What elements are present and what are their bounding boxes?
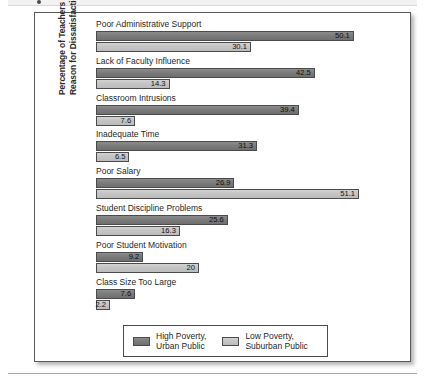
chart-legend: High Poverty, Urban Public Low Poverty, … bbox=[123, 325, 328, 357]
legend-swatch-icon bbox=[222, 337, 239, 346]
bar-row: 30.1 bbox=[96, 42, 251, 52]
bar-row: 50.1 bbox=[96, 31, 354, 41]
page-top-mark-icon bbox=[37, 0, 41, 4]
bar-value-label: 6.5 bbox=[115, 153, 129, 161]
chart-figure: Percentage of Teachers Giving Reason for… bbox=[34, 12, 411, 362]
bar-low-poverty-suburban[interactable]: 2.2 bbox=[96, 300, 110, 310]
bar-value-label: 51.1 bbox=[340, 190, 358, 198]
bar-low-poverty-suburban[interactable]: 30.1 bbox=[96, 42, 251, 52]
bar-row: 31.3 bbox=[96, 141, 257, 151]
bar-group: Poor Student Motivation9.220 bbox=[96, 240, 396, 277]
bar-row: 7.6 bbox=[96, 116, 135, 126]
bar-high-poverty-urban[interactable]: 25.6 bbox=[96, 215, 228, 225]
legend-label: Low Poverty, Suburban Public bbox=[245, 331, 307, 352]
bar-low-poverty-suburban[interactable]: 51.1 bbox=[96, 189, 359, 199]
category-label: Class Size Too Large bbox=[96, 277, 176, 288]
bar-row: 7.6 bbox=[96, 289, 135, 299]
bar-value-label: 26.9 bbox=[216, 179, 234, 187]
bar-value-label: 42.5 bbox=[296, 69, 314, 77]
page-root: Percentage of Teachers Giving Reason for… bbox=[0, 0, 425, 380]
category-label: Poor Administrative Support bbox=[96, 19, 201, 30]
bar-row: 51.1 bbox=[96, 189, 359, 199]
bar-value-label: 14.3 bbox=[151, 80, 169, 88]
legend-label-line1: Low Poverty, bbox=[245, 331, 307, 342]
bar-low-poverty-suburban[interactable]: 16.3 bbox=[96, 226, 180, 236]
bar-row: 26.9 bbox=[96, 178, 234, 188]
bar-row: 14.3 bbox=[96, 79, 170, 89]
y-axis-title-line2: Reason for Dissatisfaction bbox=[68, 0, 79, 95]
bar-value-label: 7.6 bbox=[121, 117, 135, 125]
bar-value-label: 2.2 bbox=[95, 301, 109, 309]
bar-group: Poor Administrative Support50.130.1 bbox=[96, 19, 396, 56]
category-label: Student Discipline Problems bbox=[96, 203, 202, 214]
bar-low-poverty-suburban[interactable]: 6.5 bbox=[96, 152, 129, 162]
bar-high-poverty-urban[interactable]: 9.2 bbox=[96, 252, 143, 262]
bar-value-label: 50.1 bbox=[335, 32, 353, 40]
legend-item-high-poverty-urban-public[interactable]: High Poverty, Urban Public bbox=[133, 331, 206, 352]
category-label: Inadequate Time bbox=[96, 129, 159, 140]
bar-value-label: 9.2 bbox=[129, 253, 143, 261]
bar-low-poverty-suburban[interactable]: 14.3 bbox=[96, 79, 170, 89]
category-label: Poor Student Motivation bbox=[96, 240, 187, 251]
legend-swatch-icon bbox=[133, 337, 150, 346]
bar-high-poverty-urban[interactable]: 50.1 bbox=[96, 31, 354, 41]
bar-high-poverty-urban[interactable]: 7.6 bbox=[96, 289, 135, 299]
bar-group: Lack of Faculty Influence42.514.3 bbox=[96, 56, 396, 93]
bar-high-poverty-urban[interactable]: 31.3 bbox=[96, 141, 257, 151]
page-bottom-rule bbox=[8, 373, 417, 374]
bar-row: 20 bbox=[96, 263, 199, 273]
bar-group: Class Size Too Large7.62.2 bbox=[96, 277, 396, 314]
bar-group: Inadequate Time31.36.5 bbox=[96, 129, 396, 166]
bar-low-poverty-suburban[interactable]: 20 bbox=[96, 263, 199, 273]
bar-group: Poor Salary26.951.1 bbox=[96, 166, 396, 203]
category-label: Classroom Intrusions bbox=[96, 93, 176, 104]
bar-row: 39.4 bbox=[96, 105, 299, 115]
legend-label-line2: Suburban Public bbox=[245, 341, 307, 352]
legend-label-line1: High Poverty, bbox=[156, 331, 206, 342]
y-axis-title-line1: Percentage of Teachers Giving bbox=[57, 0, 68, 95]
legend-label-line2: Urban Public bbox=[156, 341, 206, 352]
category-label: Poor Salary bbox=[96, 166, 140, 177]
category-label: Lack of Faculty Influence bbox=[96, 56, 190, 67]
bar-row: 25.6 bbox=[96, 215, 228, 225]
bar-row: 2.2 bbox=[96, 300, 110, 310]
legend-label: High Poverty, Urban Public bbox=[156, 331, 206, 352]
bar-low-poverty-suburban[interactable]: 7.6 bbox=[96, 116, 135, 126]
bar-value-label: 7.6 bbox=[121, 290, 135, 298]
bar-group: Student Discipline Problems25.616.3 bbox=[96, 203, 396, 240]
bar-row: 16.3 bbox=[96, 226, 180, 236]
bar-value-label: 39.4 bbox=[280, 106, 298, 114]
bar-high-poverty-urban[interactable]: 26.9 bbox=[96, 178, 234, 188]
y-axis-title: Percentage of Teachers Giving Reason for… bbox=[57, 0, 85, 95]
bar-high-poverty-urban[interactable]: 42.5 bbox=[96, 68, 315, 78]
legend-item-low-poverty-suburban-public[interactable]: Low Poverty, Suburban Public bbox=[222, 331, 307, 352]
bar-group: Classroom Intrusions39.47.6 bbox=[96, 93, 396, 130]
bar-value-label: 31.3 bbox=[238, 142, 256, 150]
plot-area: Poor Administrative Support50.130.1Lack … bbox=[96, 19, 396, 317]
bar-high-poverty-urban[interactable]: 39.4 bbox=[96, 105, 299, 115]
bar-value-label: 20 bbox=[186, 264, 197, 272]
bar-row: 42.5 bbox=[96, 68, 315, 78]
bar-value-label: 16.3 bbox=[161, 227, 179, 235]
bar-row: 6.5 bbox=[96, 152, 129, 162]
bar-value-label: 25.6 bbox=[209, 216, 227, 224]
bar-row: 9.2 bbox=[96, 252, 143, 262]
bar-value-label: 30.1 bbox=[232, 43, 250, 51]
